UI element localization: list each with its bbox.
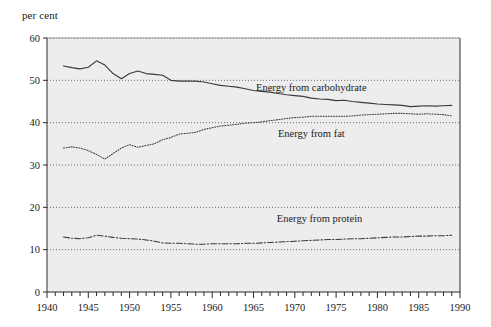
x-axis-tick-labels: 1940194519501955196019651970197519801985… bbox=[37, 302, 471, 313]
y-tick-label: 10 bbox=[30, 244, 41, 255]
energy-sources-line-chart: per cent 0102030405060 19401945195019551… bbox=[0, 0, 491, 327]
x-tick-label: 1985 bbox=[408, 302, 429, 313]
series-label-1: Energy from fat bbox=[278, 128, 345, 139]
x-axis-major-ticks bbox=[47, 292, 460, 298]
x-tick-label: 1980 bbox=[367, 302, 388, 313]
y-axis-tick-labels: 0102030405060 bbox=[30, 33, 41, 298]
y-tick-label: 30 bbox=[30, 160, 41, 171]
y-tick-label: 60 bbox=[30, 33, 41, 44]
y-tick-label: 40 bbox=[30, 117, 41, 128]
y-axis-ticks bbox=[43, 38, 47, 292]
y-tick-label: 20 bbox=[30, 202, 41, 213]
x-tick-label: 1975 bbox=[326, 302, 347, 313]
x-tick-label: 1940 bbox=[37, 302, 58, 313]
series-label-2: Energy from protein bbox=[277, 213, 363, 224]
x-tick-label: 1955 bbox=[160, 302, 181, 313]
chart-svg: 0102030405060 19401945195019551960196519… bbox=[0, 0, 491, 327]
y-tick-label: 50 bbox=[30, 75, 41, 86]
x-tick-label: 1950 bbox=[119, 302, 140, 313]
x-tick-label: 1960 bbox=[202, 302, 223, 313]
x-tick-label: 1965 bbox=[243, 302, 264, 313]
y-tick-label: 0 bbox=[35, 287, 40, 298]
x-tick-label: 1970 bbox=[284, 302, 305, 313]
series-label-0: Energy from carbohydrate bbox=[256, 82, 367, 93]
x-tick-label: 1990 bbox=[450, 302, 471, 313]
x-tick-label: 1945 bbox=[78, 302, 99, 313]
